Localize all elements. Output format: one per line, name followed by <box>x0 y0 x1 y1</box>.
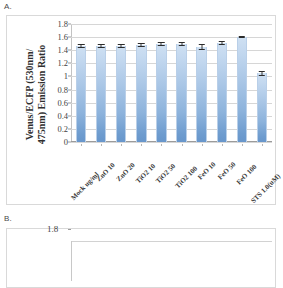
plot-area <box>71 24 272 142</box>
error-bar-cap <box>239 37 245 38</box>
x-axis-tick-mark <box>121 144 122 146</box>
bar-slot <box>96 46 106 142</box>
x-axis-tick-mark <box>262 144 263 146</box>
error-bar-cap <box>178 45 184 46</box>
x-axis-tick-mark <box>141 144 142 146</box>
x-axis-tick-mark <box>81 144 82 146</box>
y-axis-tick-labels: 1.81.61.41.210.80.60.40.20 <box>43 24 68 142</box>
panel-a-label: A. <box>4 2 12 11</box>
chart-b-gridline <box>71 241 272 242</box>
x-axis-tick-labels: Mock ug/mlZnO 10ZnO 20TiO2 10TiO2 50TiO2… <box>71 144 272 202</box>
x-axis-tick-label: FeO 100 <box>235 164 258 187</box>
error-bar-cap <box>219 44 225 45</box>
bar <box>116 46 126 142</box>
x-axis-tick-label: TiO2 100 <box>174 166 199 191</box>
x-axis-tick-mark <box>182 144 183 146</box>
error-bar-cap <box>158 45 164 46</box>
y-axis-tick-mark <box>68 76 71 77</box>
x-axis-tick-label: FeO 50 <box>217 161 237 181</box>
y-axis-tick-label: 0.6 <box>57 98 68 107</box>
y-axis-tick-label: 1.2 <box>57 59 68 68</box>
error-bar-cap <box>198 44 204 45</box>
y-axis-tick-mark <box>68 63 71 64</box>
y-axis-tick-label: 0.2 <box>57 125 68 134</box>
error-bar-cap <box>198 49 204 50</box>
error-bar-cap <box>118 44 124 45</box>
bar-slot <box>176 44 186 142</box>
bar <box>136 45 146 142</box>
bar <box>156 44 166 142</box>
bar <box>76 46 86 142</box>
y-axis-tick-mark <box>68 89 71 90</box>
error-bar-cap <box>259 71 265 72</box>
x-axis-tick-label: ZnO 10 <box>96 162 117 183</box>
bar-slot <box>156 44 166 142</box>
error-bar-cap <box>138 46 144 47</box>
chart-b-ytick-mark <box>68 229 71 230</box>
y-axis-tick-mark <box>68 128 71 129</box>
error-bar <box>257 71 267 76</box>
bar-slot <box>196 47 206 142</box>
x-axis-tick-label: TiO2 10 <box>135 163 157 185</box>
chart-panel-b: 1.8 <box>6 228 276 288</box>
x-axis-tick-label: FeO 10 <box>197 161 217 181</box>
error-bar <box>76 44 86 48</box>
gridline <box>71 24 272 25</box>
y-axis-tick-mark <box>68 115 71 116</box>
y-axis-tick-mark <box>68 142 71 143</box>
x-axis-tick-label: STS 1.0(uM) <box>250 173 282 205</box>
y-axis-tick-mark <box>68 50 71 51</box>
error-bar <box>136 43 146 47</box>
bar-slot <box>217 43 227 142</box>
error-bar-cap <box>138 43 144 44</box>
chart-b-ytick-label: 1.8 <box>47 224 58 234</box>
error-bar-cap <box>259 75 265 76</box>
error-bar-cap <box>78 44 84 45</box>
bar <box>217 43 227 142</box>
bar-slot <box>136 45 146 142</box>
x-axis-tick-mark <box>222 144 223 146</box>
x-axis-tick-label: ZnO 20 <box>116 162 137 183</box>
error-bar <box>196 44 206 51</box>
error-bar <box>116 44 126 48</box>
error-bar <box>176 42 186 46</box>
y-axis-tick-label: 1.6 <box>57 33 68 42</box>
error-bar <box>96 44 106 48</box>
x-axis-tick-label: TiO2 50 <box>155 163 177 185</box>
error-bar <box>156 42 166 46</box>
chart-b-y-axis-line <box>71 241 72 281</box>
bar-slot <box>116 46 126 142</box>
chart-b-plot-area <box>71 241 272 281</box>
chart-panel-a: Venus/ECFP (530nm/ 475nm) Emission Ratio… <box>6 15 276 205</box>
x-axis-tick-mark <box>101 144 102 146</box>
bar <box>237 37 247 142</box>
bar-slot <box>257 73 267 142</box>
y-axis-tick-label: 0.4 <box>57 112 68 121</box>
bar <box>176 44 186 142</box>
error-bar <box>237 36 247 39</box>
y-axis-tick-label: 1.4 <box>57 46 68 55</box>
bar-slot <box>76 46 86 142</box>
x-axis-tick-mark <box>242 144 243 146</box>
bar <box>257 73 267 142</box>
error-bar <box>217 41 227 45</box>
y-axis-tick-label: 0.8 <box>57 85 68 94</box>
y-axis-tick-mark <box>68 37 71 38</box>
y-axis-line <box>71 24 72 142</box>
bar <box>96 46 106 142</box>
error-bar-cap <box>158 42 164 43</box>
panel-b-label: B. <box>4 214 12 223</box>
y-axis-title-line1: Venus/ECFP (530nm/ <box>24 49 35 141</box>
error-bar-cap <box>219 41 225 42</box>
gridline <box>71 142 272 143</box>
y-axis-tick-mark <box>68 102 71 103</box>
error-bar-cap <box>98 47 104 48</box>
error-bar-cap <box>78 47 84 48</box>
error-bar-cap <box>118 47 124 48</box>
error-bar-cap <box>98 44 104 45</box>
bar-slot <box>237 37 247 142</box>
y-axis-tick-mark <box>68 24 71 25</box>
bar <box>196 47 206 142</box>
y-axis-tick-label: 1.8 <box>57 20 68 29</box>
x-axis-tick-mark <box>202 144 203 146</box>
